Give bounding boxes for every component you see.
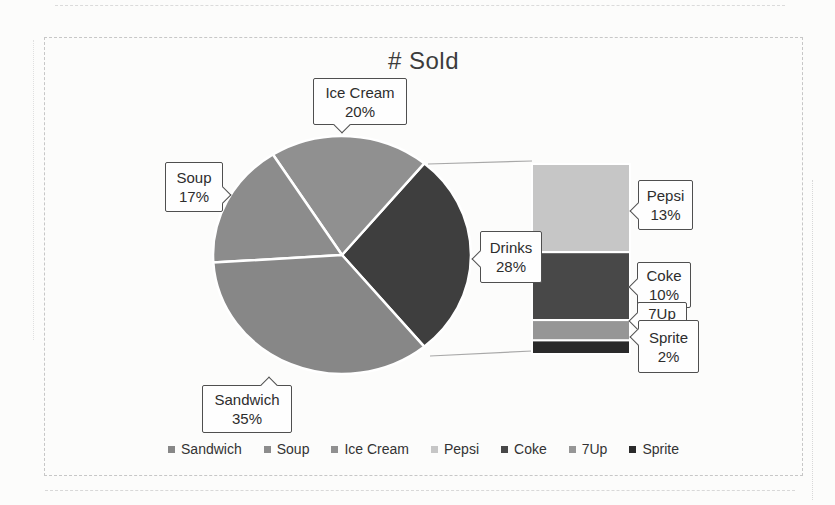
legend-label: Ice Cream — [344, 441, 409, 457]
scan-artifact-right — [812, 180, 813, 500]
legend-marker-icon — [569, 446, 576, 453]
breakout-connector-top — [428, 161, 532, 164]
legend-marker-icon — [264, 446, 271, 453]
legend-label: Pepsi — [444, 441, 479, 457]
callout-percent: 13% — [650, 205, 680, 224]
callout-percent: 28% — [496, 257, 526, 276]
bar-segment-pepsi — [532, 164, 630, 252]
legend-label: Soup — [277, 441, 310, 457]
callout-soup: Soup 17% — [165, 162, 223, 212]
callout-label: Ice Cream — [325, 83, 394, 102]
callout-label: Soup — [176, 168, 211, 187]
callout-sprite: Sprite 2% — [638, 320, 699, 373]
bar-segment-sprite — [532, 340, 630, 354]
legend-item-7up: 7Up — [569, 441, 608, 457]
legend-label: Coke — [514, 441, 547, 457]
callout-drinks: Drinks 28% — [480, 231, 542, 283]
scan-artifact-left — [33, 40, 34, 340]
bar-of-pie-chart — [44, 37, 803, 476]
callout-label: Coke — [646, 266, 681, 285]
bar-segment-coke — [532, 252, 630, 320]
callout-percent: 20% — [345, 102, 375, 121]
bar-segment-7up — [532, 320, 630, 340]
legend-marker-icon — [431, 446, 438, 453]
legend-item-ice-cream: Ice Cream — [331, 441, 409, 457]
legend-item-soup: Soup — [264, 441, 310, 457]
callout-label: Drinks — [490, 238, 533, 257]
callout-percent: 35% — [232, 409, 262, 428]
legend-item-pepsi: Pepsi — [431, 441, 479, 457]
legend-item-sandwich: Sandwich — [168, 441, 242, 457]
scan-artifact-bottom — [45, 490, 795, 491]
legend-label: Sandwich — [181, 441, 242, 457]
scan-artifact-top — [55, 5, 785, 6]
legend-marker-icon — [501, 446, 508, 453]
callout-percent: 2% — [658, 347, 680, 366]
legend-marker-icon — [629, 446, 636, 453]
breakout-connector-bottom — [430, 351, 532, 356]
callout-ice-cream: Ice Cream 20% — [313, 78, 407, 125]
scanned-chart-page: # Sold Ice Cream 20% Soup 17% Sandwich 3… — [0, 0, 835, 505]
legend-label: Sprite — [642, 441, 679, 457]
callout-label: Sandwich — [214, 390, 279, 409]
callout-sandwich: Sandwich 35% — [202, 385, 292, 433]
chart-title: # Sold — [44, 47, 803, 75]
legend-label: 7Up — [582, 441, 608, 457]
callout-pepsi: Pepsi 13% — [638, 180, 693, 230]
callout-label: Sprite — [649, 328, 688, 347]
callout-percent: 17% — [179, 187, 209, 206]
legend-item-coke: Coke — [501, 441, 547, 457]
legend-marker-icon — [331, 446, 338, 453]
callout-label: Pepsi — [647, 186, 685, 205]
legend-marker-icon — [168, 446, 175, 453]
chart-legend: Sandwich Soup Ice Cream Pepsi Coke 7Up S… — [44, 439, 803, 459]
legend-item-sprite: Sprite — [629, 441, 679, 457]
